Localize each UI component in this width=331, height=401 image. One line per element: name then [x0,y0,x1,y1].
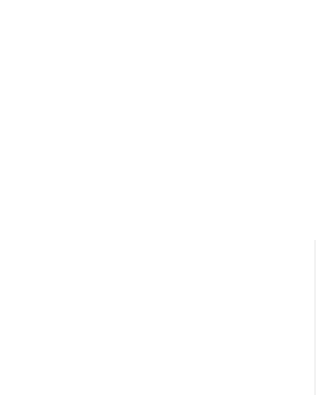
magnesium-label-bg [38,230,80,240]
migraine-label-bg [244,174,282,184]
concept-labels [38,174,282,240]
network-diagram [0,0,331,401]
